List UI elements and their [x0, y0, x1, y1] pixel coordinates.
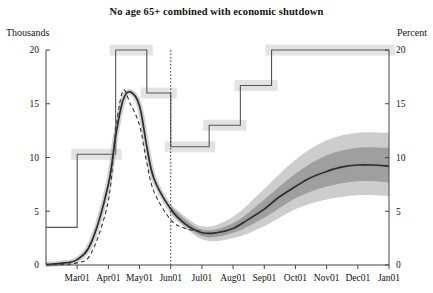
- x-tick-label: Jun01: [159, 273, 182, 283]
- y-tick-label-left: 15: [30, 99, 40, 109]
- y-tick-label-right: 10: [396, 153, 406, 163]
- y-tick-label-left: 5: [34, 207, 39, 217]
- x-tick-label: Dec01: [345, 273, 370, 283]
- x-tick-label: Sep01: [252, 273, 276, 283]
- x-tick-label: Apr01: [96, 273, 121, 283]
- plot-area: 0510152005101520Mar01Apr01May01Jun01Jul0…: [0, 0, 433, 293]
- y-tick-label-right: 5: [396, 207, 401, 217]
- x-tick-label: Nov01: [314, 273, 340, 283]
- y-tick-label-left: 10: [30, 153, 40, 163]
- x-tick-label: Jan01: [378, 273, 400, 283]
- deaths-alternative-dashed-line: [46, 90, 202, 265]
- x-tick-label: Oct01: [284, 273, 307, 283]
- y-tick-label-right: 15: [396, 99, 406, 109]
- y-tick-label-left: 0: [34, 260, 39, 270]
- y-tick-label-right: 20: [396, 45, 406, 55]
- chart-container: No age 65+ combined with economic shutdo…: [0, 0, 433, 293]
- x-tick-label: Aug01: [220, 273, 246, 283]
- y-tick-label-left: 20: [30, 45, 40, 55]
- x-tick-label: May01: [126, 273, 153, 283]
- y-tick-label-right: 0: [396, 260, 401, 270]
- x-tick-label: Jul01: [192, 273, 213, 283]
- x-tick-label: Mar01: [65, 273, 91, 283]
